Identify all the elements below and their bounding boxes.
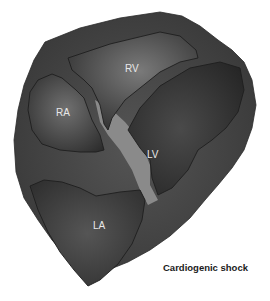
label-rv: RV — [125, 63, 139, 74]
label-lv: LV — [147, 149, 159, 160]
heart-diagram: RV RA LV LA — [0, 0, 270, 301]
figure-caption: Cardiogenic shock — [163, 262, 248, 273]
label-ra: RA — [56, 107, 70, 118]
label-la: LA — [93, 220, 106, 231]
